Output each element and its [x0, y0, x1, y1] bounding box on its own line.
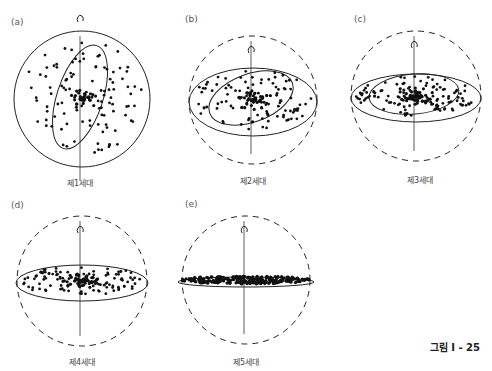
figure-number: 그림 I - 25 — [430, 339, 480, 354]
caption-gen3: 제3세대 — [407, 174, 433, 185]
caption-gen2: 제2세대 — [240, 175, 266, 186]
panel-label-e: (e) — [185, 199, 198, 209]
caption-gen5: 제5세대 — [233, 356, 259, 367]
panel-label-d: (d) — [11, 200, 24, 210]
rotation-arrow-icon-a — [77, 15, 83, 22]
caption-gen4: 제4세대 — [69, 356, 95, 367]
panel-label-c: (c) — [354, 14, 366, 24]
panel-label-b: (b) — [185, 14, 198, 24]
panel-label-a: (a) — [11, 17, 24, 27]
caption-gen1: 제1세대 — [67, 177, 93, 188]
